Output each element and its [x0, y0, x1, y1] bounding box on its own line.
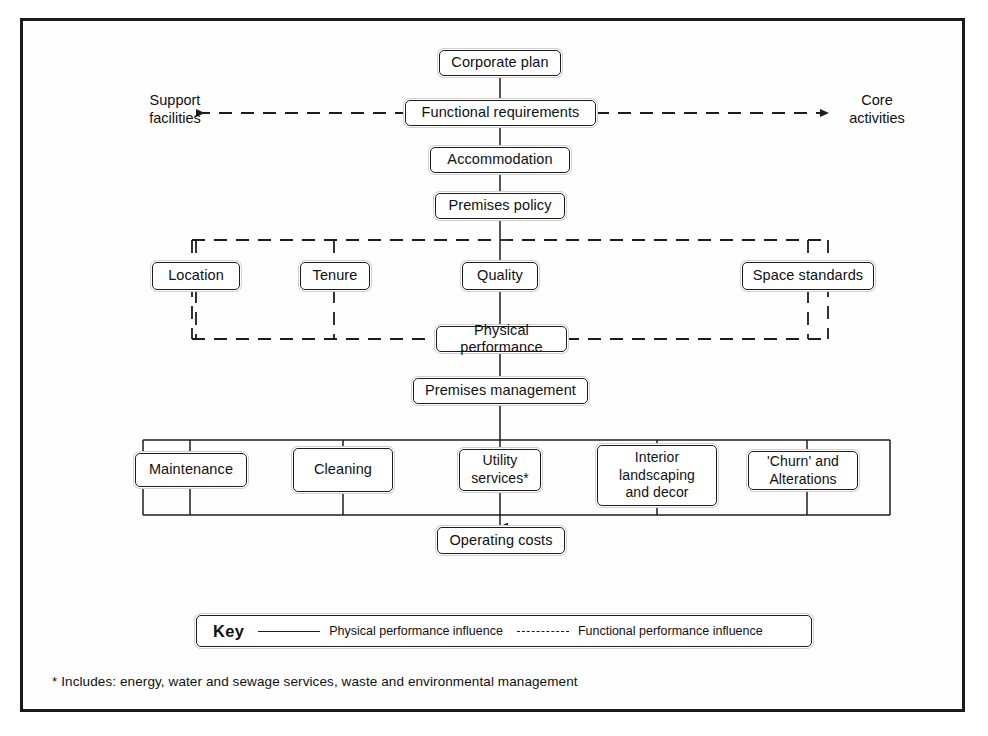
node-interior-landscaping-line2: landscaping	[619, 467, 695, 485]
node-space-standards[interactable]: Space standards	[742, 262, 874, 290]
key-entry-functional: Functional performance influence	[517, 624, 763, 638]
node-churn-and-alterations[interactable]: 'Churn' and Alterations	[748, 451, 858, 490]
node-corporate-plan[interactable]: Corporate plan	[439, 50, 561, 76]
node-tenure[interactable]: Tenure	[300, 262, 370, 290]
key-entry-physical-label: Physical performance influence	[329, 624, 503, 638]
key-label: Key	[213, 622, 244, 641]
node-utility-services[interactable]: Utility services*	[459, 449, 541, 491]
label-core-activities-line2: activities	[822, 110, 932, 128]
node-operating-costs[interactable]: Operating costs	[437, 527, 565, 554]
node-functional-requirements[interactable]: Functional requirements	[405, 100, 596, 126]
label-core-activities-line1: Core	[822, 92, 932, 110]
node-premises-management[interactable]: Premises management	[413, 378, 588, 404]
key-legend: Key Physical performance influence Funct…	[196, 615, 812, 647]
diagram-canvas: Support facilities Core activities Corpo…	[0, 0, 988, 736]
node-accommodation[interactable]: Accommodation	[430, 147, 570, 173]
node-utility-services-line2: services*	[471, 470, 529, 488]
node-cleaning[interactable]: Cleaning	[293, 448, 393, 492]
node-maintenance[interactable]: Maintenance	[135, 453, 247, 487]
key-entry-physical: Physical performance influence	[258, 624, 503, 638]
node-premises-policy[interactable]: Premises policy	[435, 193, 565, 219]
key-entry-functional-label: Functional performance influence	[578, 624, 763, 638]
node-interior-landscaping-line1: Interior	[635, 449, 679, 467]
label-core-activities: Core activities	[822, 92, 932, 127]
solid-line-swatch-icon	[258, 631, 320, 632]
node-churn-line1: 'Churn' and	[767, 453, 839, 471]
node-location[interactable]: Location	[152, 262, 240, 290]
node-quality[interactable]: Quality	[462, 262, 538, 290]
label-support-facilities-line2: facilities	[120, 110, 230, 128]
node-utility-services-line1: Utility	[483, 452, 518, 470]
node-churn-line2: Alterations	[769, 471, 836, 489]
node-interior-landscaping-line3: and decor	[625, 484, 688, 502]
label-support-facilities-line1: Support	[120, 92, 230, 110]
node-interior-landscaping-and-decor[interactable]: Interior landscaping and decor	[597, 445, 717, 506]
dashed-line-swatch-icon	[517, 631, 569, 632]
node-physical-performance[interactable]: Physical performance	[436, 326, 567, 352]
footnote: * Includes: energy, water and sewage ser…	[52, 674, 912, 689]
label-support-facilities: Support facilities	[120, 92, 230, 127]
